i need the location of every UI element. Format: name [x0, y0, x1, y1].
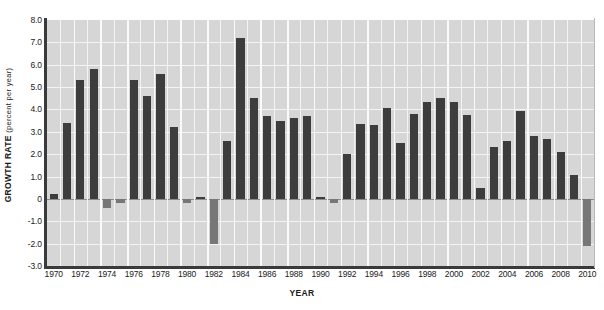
x-tick-label: 1972 [71, 269, 89, 279]
y-tick-label: 3.0 [30, 127, 42, 137]
gridline-vertical [354, 20, 355, 266]
growth-rate-bar-chart: GROWTH RATE (percent per year) 8.07.06.0… [0, 0, 604, 310]
gridline-vertical [487, 20, 488, 266]
gridline-vertical-major [527, 20, 529, 266]
bar [343, 154, 351, 199]
gridline-vertical-major [127, 20, 129, 266]
y-tick-label: 6.0 [30, 60, 42, 70]
bar [316, 197, 324, 199]
gridline-vertical [247, 20, 248, 266]
bar [250, 98, 258, 199]
x-tick-label: 2000 [445, 269, 463, 279]
y-axis-line [44, 18, 47, 268]
gridline-vertical [140, 20, 141, 266]
bar [396, 143, 404, 199]
x-tick-label: 1994 [365, 269, 383, 279]
gridline-vertical-major [314, 20, 316, 266]
bar [410, 114, 418, 199]
gridline-vertical [114, 20, 115, 266]
x-tick-label: 2010 [578, 269, 596, 279]
bar [516, 111, 524, 199]
gridline-vertical [274, 20, 275, 266]
bar [543, 139, 551, 199]
gridline-vertical [87, 20, 88, 266]
x-tick-label: 1986 [258, 269, 276, 279]
x-tick-label: 2002 [472, 269, 490, 279]
bar [356, 124, 364, 199]
bar [330, 199, 338, 203]
gridline-vertical [194, 20, 195, 266]
bar [170, 127, 178, 199]
bar [423, 102, 431, 199]
bar [583, 199, 591, 246]
bar [90, 69, 98, 199]
bar [463, 115, 471, 199]
x-axis-tick-labels: 1970197219741976197819801982198419861988… [47, 269, 594, 283]
x-tick-label: 2008 [552, 269, 570, 279]
gridline-vertical [567, 20, 568, 266]
x-axis-title: YEAR [0, 288, 604, 298]
bar [570, 175, 578, 198]
bar [196, 197, 204, 199]
x-tick-label: 1982 [205, 269, 223, 279]
gridline-vertical [60, 20, 61, 266]
gridline-vertical-major [474, 20, 476, 266]
bar [63, 123, 71, 199]
bar [476, 188, 484, 199]
gridline-vertical-major [367, 20, 369, 266]
gridline-vertical-major [234, 20, 236, 266]
bar [130, 80, 138, 199]
gridline-vertical-major [421, 20, 423, 266]
y-tick-label: 4.0 [30, 104, 42, 114]
gridline-vertical [327, 20, 328, 266]
bar [370, 125, 378, 199]
gridline-horizontal [47, 221, 594, 222]
y-tick-label: 5.0 [30, 82, 42, 92]
y-tick-label: -3.0 [28, 261, 42, 271]
y-axis-tick-labels: 8.07.06.05.04.03.02.01.00-1.0-2.0-3.0 [14, 0, 44, 270]
x-tick-label: 1978 [151, 269, 169, 279]
gridline-vertical-major [501, 20, 503, 266]
bar [263, 116, 271, 199]
x-tick-label: 1974 [98, 269, 116, 279]
x-tick-label: 1992 [338, 269, 356, 279]
x-tick-label: 1976 [125, 269, 143, 279]
bar [76, 80, 84, 199]
gridline-vertical-major [447, 20, 449, 266]
bar [450, 102, 458, 199]
x-tick-label: 1996 [391, 269, 409, 279]
gridline-vertical-major [581, 20, 583, 266]
gridline-vertical-major [260, 20, 262, 266]
x-tick-label: 2004 [498, 269, 516, 279]
bar [143, 96, 151, 199]
bar [436, 98, 444, 199]
gridline-vertical-major [154, 20, 156, 266]
bar [223, 141, 231, 199]
bar [557, 152, 565, 199]
y-tick-label: 7.0 [30, 37, 42, 47]
gridline-vertical [541, 20, 542, 266]
x-tick-label: 1984 [231, 269, 249, 279]
bar [210, 199, 218, 244]
gridline-horizontal [47, 65, 594, 66]
gridline-vertical [381, 20, 382, 266]
plot-area [47, 20, 594, 266]
bar [156, 74, 164, 199]
y-tick-label: 8.0 [30, 15, 42, 25]
gridline-vertical-major [74, 20, 76, 266]
x-tick-label: 1970 [45, 269, 63, 279]
bar [530, 136, 538, 199]
gridline-vertical-major [180, 20, 182, 266]
gridline-vertical [461, 20, 462, 266]
x-tick-label: 1990 [311, 269, 329, 279]
x-tick-label: 1988 [285, 269, 303, 279]
bar [276, 121, 284, 199]
gridline-vertical [220, 20, 221, 266]
y-tick-label: 2.0 [30, 149, 42, 159]
gridline-vertical [514, 20, 515, 266]
y-tick-label: 0 [37, 194, 42, 204]
gridline-vertical-major [100, 20, 102, 266]
gridline-vertical [167, 20, 168, 266]
y-tick-label: 1.0 [30, 172, 42, 182]
bar [290, 118, 298, 199]
